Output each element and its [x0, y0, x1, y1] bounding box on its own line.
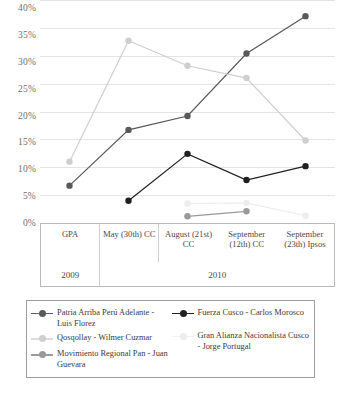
y-axis: 40% 35% 30% 25% 20% 15% 10% 5% 0% — [0, 0, 40, 223]
category-axis-table: GPA May (30th) CC August (21st) CC Septe… — [40, 223, 335, 287]
data-point[interactable] — [302, 163, 308, 169]
series-qosqollay — [66, 37, 308, 164]
year-cell-2010: 2010 — [99, 262, 334, 287]
legend-item[interactable]: Gran Alianza Nacionalista Cusco - Jorge … — [172, 330, 311, 352]
category-cell: May (30th) CC — [99, 224, 158, 262]
y-axis-tick: 10% — [18, 164, 36, 174]
legend-item[interactable]: Movimiento Regional Pan - Juan Guevara — [31, 348, 170, 370]
legend-item[interactable]: Patria Arriba Perú Adelante - Luis Flore… — [31, 307, 170, 329]
y-axis-tick: 40% — [18, 3, 36, 13]
data-point[interactable] — [125, 127, 131, 133]
series-fuerza — [125, 151, 308, 204]
data-point[interactable] — [184, 213, 190, 219]
y-axis-tick: 20% — [18, 111, 36, 121]
data-point[interactable] — [125, 198, 131, 204]
legend-item-label: Qosqollay - Wilmer Cuzmar — [57, 332, 170, 343]
category-label-row: GPA May (30th) CC August (21st) CC Septe… — [41, 224, 334, 262]
data-point[interactable] — [302, 137, 308, 143]
legend-marker-icon — [31, 349, 53, 361]
legend-item-label: Patria Arriba Perú Adelante - Luis Flore… — [57, 307, 170, 329]
legend-item[interactable]: Qosqollay - Wilmer Cuzmar — [31, 332, 170, 345]
legend-column-right: Fuerza Cusco - Carlos Morosco Gran Alian… — [170, 307, 311, 377]
data-point[interactable] — [302, 13, 308, 19]
legend-marker-icon — [172, 331, 194, 343]
legend-item-label: Gran Alianza Nacionalista Cusco - Jorge … — [198, 330, 311, 352]
series-movimiento — [184, 208, 249, 219]
data-point[interactable] — [243, 208, 249, 214]
y-axis-tick: 5% — [23, 191, 36, 201]
plot-area: 40% 35% 30% 25% 20% 15% 10% 5% 0% — [0, 0, 341, 243]
data-point[interactable] — [184, 63, 190, 69]
data-point[interactable] — [184, 151, 190, 157]
legend: Patria Arriba Perú Adelante - Luis Flore… — [26, 300, 315, 378]
data-point[interactable] — [243, 177, 249, 183]
y-axis-tick: 0% — [23, 218, 36, 228]
legend-marker-icon — [31, 333, 53, 345]
line-chart: 40% 35% 30% 25% 20% 15% 10% 5% 0% GPA Ma… — [0, 0, 341, 397]
grid-area — [40, 0, 335, 223]
legend-marker-icon — [172, 308, 194, 320]
data-point[interactable] — [125, 37, 131, 43]
legend-item-label: Movimiento Regional Pan - Juan Guevara — [57, 348, 170, 370]
data-point[interactable] — [66, 182, 72, 188]
y-axis-tick: 35% — [18, 30, 36, 40]
series-patria — [66, 13, 308, 189]
y-axis-tick: 15% — [18, 137, 36, 147]
year-cell-2009: 2009 — [41, 262, 99, 287]
category-cell: August (21st) CC — [158, 224, 217, 262]
data-point[interactable] — [66, 158, 72, 164]
data-point[interactable] — [184, 200, 190, 206]
legend-item-label: Fuerza Cusco - Carlos Morosco — [198, 307, 311, 318]
series-line — [129, 154, 306, 201]
legend-item[interactable]: Fuerza Cusco - Carlos Morosco — [172, 307, 311, 320]
y-axis-tick: 25% — [18, 84, 36, 94]
data-point[interactable] — [184, 113, 190, 119]
data-point[interactable] — [243, 50, 249, 56]
year-row: 2009 2010 — [41, 262, 334, 287]
category-cell: September (23th) Ipsos — [276, 224, 334, 262]
y-axis-tick: 30% — [18, 57, 36, 67]
category-cell: GPA — [41, 224, 99, 262]
data-point[interactable] — [243, 200, 249, 206]
series-line — [188, 211, 247, 216]
legend-column-left: Patria Arriba Perú Adelante - Luis Flore… — [31, 307, 170, 377]
data-point[interactable] — [302, 213, 308, 219]
series-layer — [40, 0, 335, 223]
series-line — [70, 41, 306, 162]
data-point[interactable] — [243, 75, 249, 81]
legend-marker-icon — [31, 308, 53, 320]
category-cell: September (12th) CC — [218, 224, 276, 262]
series-line — [70, 16, 306, 185]
